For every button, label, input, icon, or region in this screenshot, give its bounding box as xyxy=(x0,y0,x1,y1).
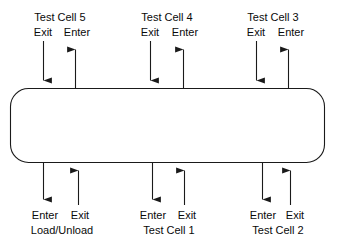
label-enter-test-cell-5: Enter xyxy=(64,27,90,38)
label-title-test-cell-4: Test Cell 4 xyxy=(141,12,192,23)
label-enter-test-cell-4: Enter xyxy=(172,27,198,38)
label-title-load-unload: Load/Unload xyxy=(31,225,93,236)
label-exit-test-cell-1: Exit xyxy=(178,210,196,221)
label-exit-test-cell-3: Exit xyxy=(247,27,265,38)
label-title-test-cell-2: Test Cell 2 xyxy=(252,225,303,236)
label-title-test-cell-1: Test Cell 1 xyxy=(143,225,194,236)
diagram-canvas: Test Cell 5 Exit Enter Test Cell 4 Exit … xyxy=(0,0,337,249)
label-exit-test-cell-4: Exit xyxy=(141,27,159,38)
label-exit-load-unload: Exit xyxy=(71,210,89,221)
label-enter-test-cell-3: Enter xyxy=(278,27,304,38)
label-title-test-cell-3: Test Cell 3 xyxy=(247,12,298,23)
label-enter-test-cell-1: Enter xyxy=(140,210,166,221)
label-enter-load-unload: Enter xyxy=(32,210,58,221)
conveyor-loop-shape xyxy=(11,89,325,163)
label-enter-test-cell-2: Enter xyxy=(250,210,276,221)
label-exit-test-cell-5: Exit xyxy=(34,27,52,38)
label-exit-test-cell-2: Exit xyxy=(286,210,304,221)
label-title-test-cell-5: Test Cell 5 xyxy=(34,12,85,23)
